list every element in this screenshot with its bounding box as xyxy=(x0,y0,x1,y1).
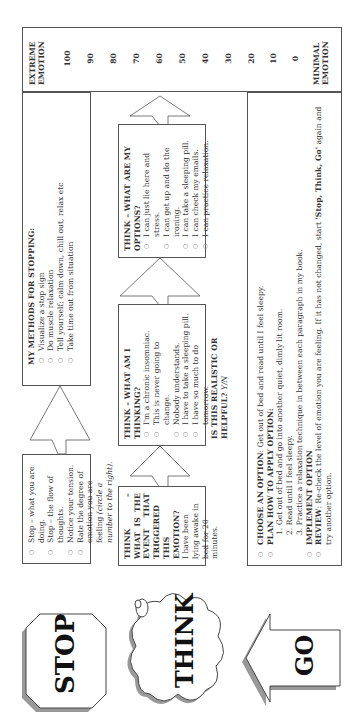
scale-value[interactable]: 80 xyxy=(109,26,118,91)
options-box: THINK – WHAT ARE MY OPTIONS? I can just … xyxy=(118,124,206,258)
list-item: REVIEW: Re-check the level of emotion yo… xyxy=(314,99,333,559)
list-item: Visualize a stop sign xyxy=(37,99,47,365)
list-item: Do muscle relaxation xyxy=(46,99,56,365)
scale-value[interactable]: 20 xyxy=(247,26,256,91)
list-item: CHOOSE AN OPTION: Get out of bed and rea… xyxy=(256,99,266,559)
go-label: GO xyxy=(290,635,319,676)
thinking-box: THINK – WHAT AM I THINKING? I'm a chroni… xyxy=(118,304,206,446)
scale-value[interactable]: 30 xyxy=(224,26,233,91)
stop-think-go-worksheet: STOP THINK GO Stop – what you are doing.… xyxy=(0,0,359,716)
list-item: I have so much to do tomorrow. xyxy=(191,311,210,439)
list-item: This is never going to change. xyxy=(152,311,171,439)
arrow-connector-icon xyxy=(120,258,200,306)
stop-steps-box: Stop – what you are doing. Stop – the fl… xyxy=(22,454,91,564)
list-item: Notice your tension. xyxy=(66,461,76,557)
emotion-scale: EXTREME EMOTION 100 90 80 70 60 50 40 30… xyxy=(22,27,342,92)
scale-value[interactable]: 50 xyxy=(178,26,187,91)
minimal-emotion-label: MINIMAL EMOTION xyxy=(313,25,330,85)
methods-title: MY METHODS FOR STOPPING: xyxy=(27,99,37,365)
list-item: I'm a chronic insomniac. xyxy=(142,311,152,439)
list-item: Nobody understands. xyxy=(172,311,182,439)
scale-value[interactable]: 10 xyxy=(269,26,278,91)
scale-value[interactable]: 40 xyxy=(201,26,210,91)
scale-value[interactable]: 100 xyxy=(63,26,72,91)
list-item: Stop – what you are doing. xyxy=(27,461,46,557)
arrow-connector-icon xyxy=(30,386,90,454)
scale-value[interactable]: 70 xyxy=(132,26,141,91)
list-item: Rate the degree of emotion you are feeli… xyxy=(76,461,115,557)
event-text: I have been lying awake in bed for 20 mi… xyxy=(181,493,220,559)
list-item: I can get up and do the ironing. xyxy=(162,131,181,251)
list-item: I can take a sleeping pill. xyxy=(181,131,191,251)
list-item: PLAN HOW TO APPLY OPTION: xyxy=(266,99,276,559)
plan-step: 2. Read until I feel sleepy. xyxy=(285,99,295,559)
extreme-emotion-label: EXTREME EMOTION xyxy=(29,25,46,85)
go-plan-box: CHOOSE AN OPTION: Get out of bed and rea… xyxy=(247,92,342,566)
list-item: IMPLEMENT OPTION xyxy=(305,99,315,559)
event-title: THINK – WHAT IS THE EVENT THAT TRIGGERED… xyxy=(123,493,181,559)
list-item: Tell yourself; calm down, chill out, rel… xyxy=(56,99,66,365)
list-item: I can check my emails. xyxy=(191,131,201,251)
list-item: I can practice relaxation. xyxy=(201,131,211,251)
list-item: I have to take a sleeping pill. xyxy=(181,311,191,439)
plan-step: 1. Get out of bed and go into another qu… xyxy=(275,99,285,559)
list-item: I can just lie here and stress. xyxy=(142,131,161,251)
stop-label: STOP xyxy=(50,614,80,694)
options-title: THINK – WHAT ARE MY OPTIONS? xyxy=(123,131,142,251)
think-label: THINK xyxy=(170,593,199,688)
event-box: THINK – WHAT IS THE EVENT THAT TRIGGERED… xyxy=(118,486,206,566)
methods-box: MY METHODS FOR STOPPING: Visualize a sto… xyxy=(22,92,91,386)
arrow-connector-icon xyxy=(130,446,190,488)
scale-value[interactable]: 60 xyxy=(155,26,164,91)
list-item: Stop – the flow of thoughts. xyxy=(46,461,65,557)
realistic-question: IS THIS REALISTIC OR HELPFUL? Y/N xyxy=(210,311,229,439)
scale-value[interactable]: 90 xyxy=(86,26,95,91)
arrow-connector-icon xyxy=(130,96,190,126)
plan-step: 3. Practice a relaxation technique in be… xyxy=(295,99,305,559)
scale-value[interactable]: 0 xyxy=(291,26,300,91)
thinking-title: THINK – WHAT AM I THINKING? xyxy=(123,311,142,439)
list-item: Take time out from situation xyxy=(66,99,76,365)
